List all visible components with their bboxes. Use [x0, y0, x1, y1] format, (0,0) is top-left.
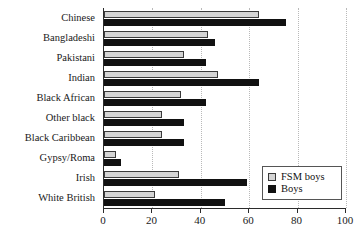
y-axis-label: Black African	[36, 93, 95, 104]
x-tick-label: 100	[337, 215, 354, 226]
bar-boys	[104, 139, 184, 146]
bar-fsm-boys	[104, 111, 162, 118]
bar-boys	[104, 199, 225, 206]
bar-chart: ChineseBangladeshiPakistaniIndianBlack A…	[0, 0, 357, 233]
y-axis-label: Irish	[76, 173, 95, 184]
legend-label: FSM boys	[281, 172, 324, 183]
bar-boys	[104, 79, 259, 86]
bar-fsm-boys	[104, 151, 116, 158]
light-gray-square-icon	[268, 173, 276, 181]
bar-fsm-boys	[104, 191, 155, 198]
bar-group	[104, 48, 346, 68]
bar-fsm-boys	[104, 51, 184, 58]
bar-boys	[104, 99, 206, 106]
chart-legend: FSM boysBoys	[262, 166, 342, 200]
bar-fsm-boys	[104, 31, 208, 38]
bar-boys	[104, 19, 286, 26]
y-axis-label: Indian	[68, 73, 95, 84]
x-tick-label: 60	[243, 215, 254, 226]
x-tick-mark	[200, 209, 201, 213]
x-tick-label: 40	[194, 215, 205, 226]
bar-group	[104, 128, 346, 148]
bar-group	[104, 148, 346, 168]
bar-fsm-boys	[104, 171, 179, 178]
x-tick-mark	[297, 209, 298, 213]
bar-boys	[104, 119, 184, 126]
bar-group	[104, 28, 346, 48]
bar-group	[104, 88, 346, 108]
black-square-icon	[268, 185, 276, 193]
y-axis-label: White British	[38, 193, 95, 204]
bar-fsm-boys	[104, 71, 218, 78]
bar-boys	[104, 159, 121, 166]
bar-boys	[104, 59, 206, 66]
y-axis-label: Other black	[46, 113, 95, 124]
x-tick-label: 80	[291, 215, 302, 226]
bar-group	[104, 108, 346, 128]
y-axis-label: Black Caribbean	[25, 133, 95, 144]
x-tick-mark	[151, 209, 152, 213]
x-tick-label: 0	[100, 215, 106, 226]
bar-boys	[104, 179, 247, 186]
bar-boys	[104, 39, 215, 46]
bar-group	[104, 8, 346, 28]
bar-group	[104, 68, 346, 88]
y-axis-label: Pakistani	[57, 53, 96, 64]
y-axis-label: Chinese	[61, 13, 95, 24]
x-tick-mark	[345, 209, 346, 213]
legend-label: Boys	[281, 184, 303, 195]
y-axis-labels: ChineseBangladeshiPakistaniIndianBlack A…	[0, 8, 99, 208]
gridline-100	[346, 8, 347, 208]
bar-fsm-boys	[104, 91, 181, 98]
y-axis-label: Gypsy/Roma	[40, 153, 95, 164]
bar-fsm-boys	[104, 131, 162, 138]
x-tick-label: 20	[146, 215, 157, 226]
x-tick-mark	[248, 209, 249, 213]
bar-fsm-boys	[104, 11, 259, 18]
legend-item: Boys	[268, 184, 337, 195]
x-tick-mark	[103, 209, 104, 213]
y-axis-label: Bangladeshi	[43, 33, 95, 44]
legend-item: FSM boys	[268, 172, 337, 183]
